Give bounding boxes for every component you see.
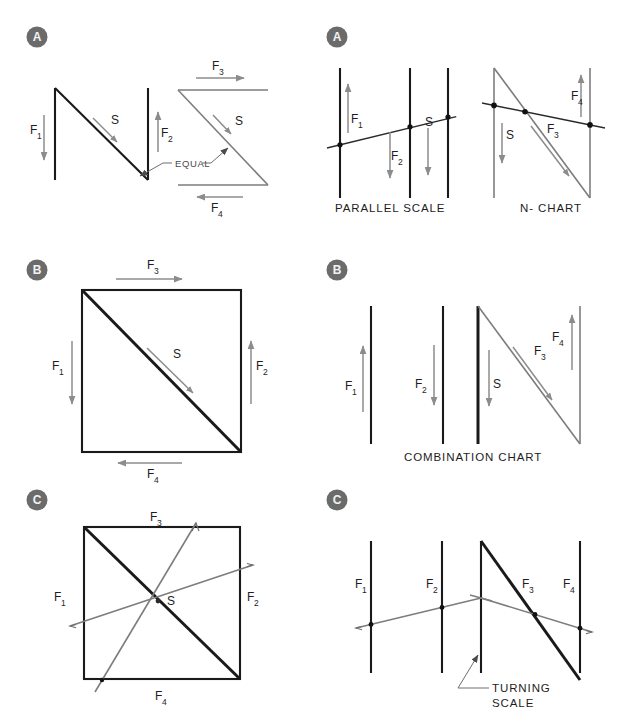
c-right-label-f4-sub: 4 xyxy=(570,585,575,595)
badge-a-left-letter: A xyxy=(33,30,42,44)
c-left-label-s: S xyxy=(167,594,175,608)
b-right-label-f4-sub: 4 xyxy=(559,338,564,348)
c-right-label-f1-sub: 1 xyxy=(362,585,367,595)
ar-nc-label-f3-sub: 3 xyxy=(554,130,559,140)
c-right-dot-f4 xyxy=(578,626,583,631)
ar-nc-dot-2 xyxy=(522,109,528,115)
ar-ps-label-s: S xyxy=(425,115,433,129)
ar-ps-label-f2-sub: 2 xyxy=(398,157,403,167)
badge-a-left: A xyxy=(27,27,48,48)
b-right-label-s: S xyxy=(493,377,501,391)
badge-b-right: B xyxy=(327,260,348,281)
a-left-annotation-equal: EQUAL xyxy=(175,158,210,169)
c-left-label-f2-sub: 2 xyxy=(254,598,259,608)
a-left-label-f3-sub: 3 xyxy=(219,67,224,77)
b-left-label-f1-sub: 1 xyxy=(59,367,64,377)
ar-ps-label-f1-sub: 1 xyxy=(358,120,363,130)
a-left-label-s: S xyxy=(111,113,119,127)
c-left-label-f1-sub: 1 xyxy=(61,598,66,608)
b-right-label-f3-sub: 3 xyxy=(541,352,546,362)
b-left-label-f3-sub: 3 xyxy=(154,266,159,276)
c-right-label-f3-sub: 3 xyxy=(529,585,534,595)
ar-nc-dot-1 xyxy=(491,103,497,109)
badge-c-left-letter: C xyxy=(33,493,42,507)
b-right-label-f2-sub: 2 xyxy=(422,385,427,395)
ar-nc-caption: N- CHART xyxy=(520,202,582,214)
b-left-label-f2-sub: 2 xyxy=(263,367,268,377)
ar-nc-label-f4-sub: 4 xyxy=(578,97,583,107)
badge-b-left-letter: B xyxy=(33,263,42,277)
ar-ps-dot-1 xyxy=(337,142,342,147)
c-right-label-f2-sub: 2 xyxy=(433,585,438,595)
nomograph-figure: A F 1 S F 2 F 3 S F 4 xyxy=(0,0,617,726)
a-left-label-f1-sub: 1 xyxy=(37,131,42,141)
b-left-label-s: S xyxy=(173,347,181,361)
c-left-label-f4-sub: 4 xyxy=(162,697,167,707)
b-right-label-f1-sub: 1 xyxy=(352,387,357,397)
badge-b-right-letter: B xyxy=(333,263,342,277)
b-left-label-f4-sub: 4 xyxy=(154,475,159,485)
c-right-caption-line2: SCALE xyxy=(492,697,534,709)
figure-sheet: A F 1 S F 2 F 3 S F 4 xyxy=(0,0,617,726)
badge-b-left: B xyxy=(27,260,48,281)
c-right-dot-f3 xyxy=(533,612,538,617)
a-left-label-f2-sub: 2 xyxy=(168,134,173,144)
badge-c-right: C xyxy=(327,490,348,511)
badge-a-right-letter: A xyxy=(333,30,342,44)
ar-ps-dot-3 xyxy=(445,114,450,119)
ar-nc-dot-3 xyxy=(587,122,593,128)
ar-ps-caption: PARALLEL SCALE xyxy=(335,202,445,214)
c-right-caption-line1: TURNING xyxy=(492,682,551,694)
c-left-index-dot-bottom xyxy=(100,678,104,682)
ar-nc-label-s: S xyxy=(506,128,514,142)
badge-c-right-letter: C xyxy=(333,493,342,507)
a-left-label-f4-sub: 4 xyxy=(218,209,223,219)
c-left-node-s xyxy=(156,599,161,604)
badge-c-left: C xyxy=(27,490,48,511)
b-right-caption: COMBINATION CHART xyxy=(404,451,542,463)
a-left-label-s2: S xyxy=(235,114,243,128)
c-left-label-f3-sub: 3 xyxy=(157,518,162,528)
badge-a-right: A xyxy=(327,27,348,48)
c-right-dot-f1 xyxy=(369,622,374,627)
c-right-dot-f2 xyxy=(440,605,445,610)
ar-ps-dot-2 xyxy=(407,124,412,129)
